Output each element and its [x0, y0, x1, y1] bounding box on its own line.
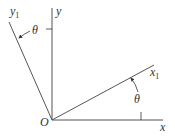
x1-label: x1 — [149, 65, 159, 81]
x-label: x — [159, 120, 166, 134]
origin-label: O — [40, 115, 49, 129]
rotated-axes-diagram: y1 y θ x1 θ O x — [0, 0, 175, 138]
y1-label: y1 — [9, 4, 19, 20]
y-label: y — [55, 4, 62, 18]
y1-axis — [9, 22, 52, 120]
theta-top-label: θ — [32, 23, 38, 37]
theta-bottom-label: θ — [134, 92, 140, 106]
